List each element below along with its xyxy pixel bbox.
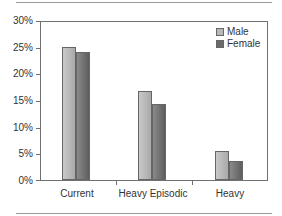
y-tick-label: 5% xyxy=(0,149,33,159)
y-tick-label: 0% xyxy=(0,176,33,186)
bar-heavy-female xyxy=(229,161,243,180)
female-swatch-icon xyxy=(216,40,224,48)
y-tick-label: 30% xyxy=(0,16,33,26)
bar-current-female xyxy=(76,52,90,180)
y-tick-label: 15% xyxy=(0,96,33,106)
bar-heavy-episodic-female xyxy=(152,104,166,180)
y-tick-label: 25% xyxy=(0,43,33,53)
y-tick-label: 10% xyxy=(0,123,33,133)
legend-item-male: Male xyxy=(216,26,260,38)
bar-heavy-male xyxy=(215,151,229,180)
bar-current-male xyxy=(62,47,76,180)
legend-label-male: Male xyxy=(227,26,249,38)
bottom-divider xyxy=(16,213,272,214)
legend-label-female: Female xyxy=(227,38,260,50)
y-tick-label: 20% xyxy=(0,69,33,79)
male-swatch-icon xyxy=(216,28,224,36)
x-tick xyxy=(116,181,117,185)
legend-item-female: Female xyxy=(216,38,260,50)
legend: Male Female xyxy=(216,26,260,50)
top-divider xyxy=(16,2,272,3)
bar-heavy-episodic-male xyxy=(138,91,152,180)
x-tick xyxy=(192,181,193,185)
x-label-heavy: Heavy xyxy=(185,188,275,199)
